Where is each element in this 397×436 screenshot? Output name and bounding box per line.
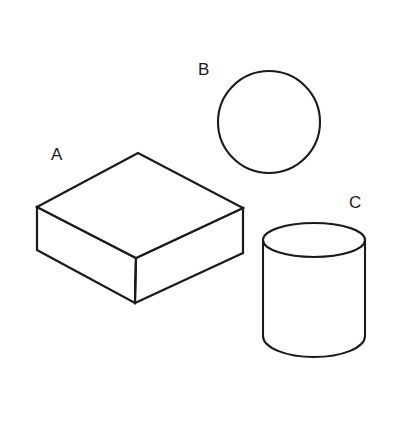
shape-label-b: B (198, 61, 210, 78)
figure-canvas: A B C (0, 0, 397, 436)
shape-label-c: C (349, 194, 362, 211)
shape-label-a: A (51, 146, 63, 163)
cylinder-top-ellipse (263, 223, 365, 257)
box-front-vertical-edge (135, 258, 136, 303)
circle-outline (218, 71, 320, 173)
shape-c-cylinder (263, 223, 365, 357)
shape-a-box (37, 153, 243, 303)
shape-b-circle (218, 71, 320, 173)
